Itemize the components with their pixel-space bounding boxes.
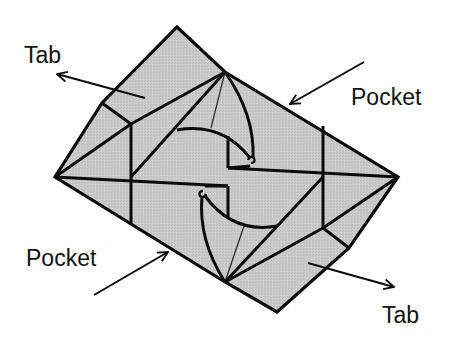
origami-diagram [0,0,450,339]
label-tab-top-left: Tab [24,44,61,67]
label-pocket-bottom-left: Pocket [26,247,96,270]
label-tab-bottom-right: Tab [382,304,419,327]
paper-outline [55,27,398,312]
arrow-pocket-bottom-left [94,252,168,295]
label-pocket-top-right: Pocket [351,86,421,109]
